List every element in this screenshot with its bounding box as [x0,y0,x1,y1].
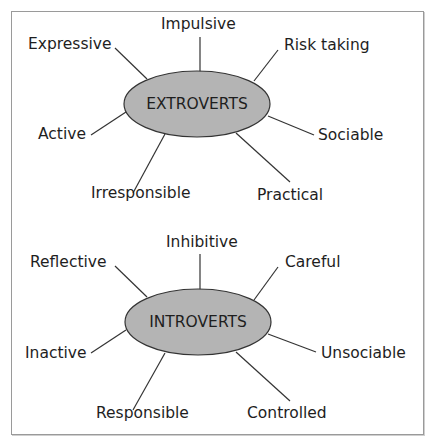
trait-reflective: Reflective [30,255,107,271]
trait-irresponsible: Irresponsible [91,186,191,202]
connector-controlled [236,352,290,401]
trait-expressive: Expressive [28,37,112,53]
connector-unsociable [268,334,316,352]
trait-practical: Practical [257,188,323,204]
trait-controlled: Controlled [247,406,327,422]
spider-diagram-graphics [0,0,431,446]
connector-inactive [91,330,126,353]
trait-inactive: Inactive [25,346,87,362]
trait-responsible: Responsible [96,406,189,422]
trait-impulsive: Impulsive [161,17,236,33]
connector-responsible [133,353,165,410]
connector-reflective [115,266,147,297]
connector-expressive [115,48,147,79]
extroverts-center-label: EXTROVERTS [146,97,248,113]
trait-risk-taking: Risk taking [284,38,370,54]
trait-inhibitive: Inhibitive [166,235,238,251]
introverts-center-label: INTROVERTS [149,315,247,331]
trait-sociable: Sociable [318,128,383,144]
trait-careful: Careful [285,255,340,271]
connector-sociable [268,116,314,135]
trait-active: Active [38,127,86,143]
connector-careful [254,267,278,300]
connector-active [91,112,126,135]
connector-risk-taking [254,50,278,81]
connector-practical [236,133,290,182]
trait-unsociable: Unsociable [321,346,406,362]
